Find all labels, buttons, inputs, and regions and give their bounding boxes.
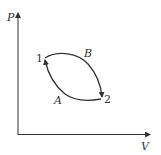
pv-diagram: P V 1 2 B A — [0, 0, 161, 155]
path-b-curve — [45, 53, 102, 97]
x-axis-label: V — [141, 140, 150, 153]
path-b-label: B — [83, 47, 92, 60]
point-2-label: 2 — [104, 93, 111, 106]
y-axis-label: P — [6, 11, 15, 24]
point-1-label: 1 — [36, 52, 43, 65]
path-a-label: A — [53, 94, 62, 107]
